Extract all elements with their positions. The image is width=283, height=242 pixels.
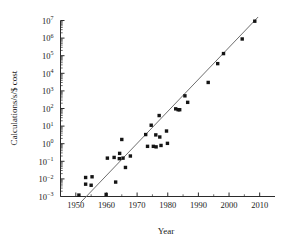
x-axis-title-text: Year	[158, 226, 175, 236]
y-tick-label: 102	[42, 103, 54, 114]
data-point-marker	[121, 156, 124, 159]
y-axis-title-text: Calculations/s/$ cost	[9, 70, 19, 145]
data-point-marker	[186, 101, 189, 104]
data-point-marker	[118, 157, 121, 160]
data-point-marker	[112, 156, 115, 159]
data-point-marker	[253, 20, 256, 23]
data-point-marker	[90, 175, 93, 178]
data-point-marker	[77, 193, 80, 196]
data-point-marker	[114, 180, 117, 183]
x-tick-label: 1980	[159, 200, 176, 210]
data-point-marker	[183, 94, 186, 97]
data-point-marker	[144, 133, 147, 136]
data-point-marker	[120, 138, 123, 141]
x-axis-tick-labels: 1950196019701980199020002010	[67, 200, 268, 210]
data-point-marker	[241, 37, 244, 40]
y-tick-label: 103	[42, 86, 54, 97]
data-point-marker	[150, 124, 153, 127]
data-point-marker	[154, 133, 157, 136]
data-point-marker	[89, 184, 92, 187]
data-point-marker	[207, 81, 210, 84]
y-tick-label: 10−3	[39, 191, 54, 202]
x-tick-label: 2000	[221, 200, 238, 210]
data-point-marker	[146, 145, 149, 148]
y-tick-label: 107	[42, 15, 54, 26]
y-axis-tick-labels: 10−310−210−1100101102103104105106107	[39, 15, 54, 202]
data-point-marker	[222, 52, 225, 55]
y-tick-label: 100	[42, 138, 54, 149]
data-point-marker	[158, 135, 161, 138]
data-point-marker	[124, 166, 127, 169]
x-tick-label: 2010	[251, 200, 268, 210]
data-point-marker	[118, 152, 121, 155]
data-point-marker	[216, 62, 219, 65]
x-tick-label: 1990	[190, 200, 207, 210]
scatter-chart: Calculations/s/$ cost Year 10−310−210−11…	[0, 0, 283, 242]
y-tick-label: 106	[42, 33, 54, 44]
data-point-marker	[154, 145, 157, 148]
y-tick-label: 10−2	[39, 174, 54, 185]
data-point-marker	[157, 114, 160, 117]
chart-figure: Calculations/s/$ cost Year 10−310−210−11…	[0, 0, 283, 242]
trend-line	[80, 17, 258, 203]
x-tick-label: 1970	[129, 200, 146, 210]
y-tick-label: 101	[42, 121, 54, 132]
data-point-marker	[84, 182, 87, 185]
data-point-marker	[178, 108, 181, 111]
data-point-marker	[106, 156, 109, 159]
data-point-marker	[129, 154, 132, 157]
y-tick-label: 10−1	[39, 156, 54, 167]
data-point-marker	[159, 144, 162, 147]
data-point-marker	[84, 176, 87, 179]
y-tick-label: 104	[42, 68, 54, 79]
y-tick-label: 105	[42, 50, 54, 61]
x-tick-label: 1960	[98, 200, 115, 210]
data-points	[77, 20, 256, 197]
y-axis-ticks	[61, 21, 65, 197]
x-axis-ticks	[76, 193, 260, 197]
data-point-marker	[165, 129, 168, 132]
y-axis-title: Calculations/s/$ cost	[9, 70, 19, 145]
data-point-marker	[104, 193, 107, 196]
data-point-marker	[166, 142, 169, 145]
trend-line-segment	[80, 17, 258, 203]
